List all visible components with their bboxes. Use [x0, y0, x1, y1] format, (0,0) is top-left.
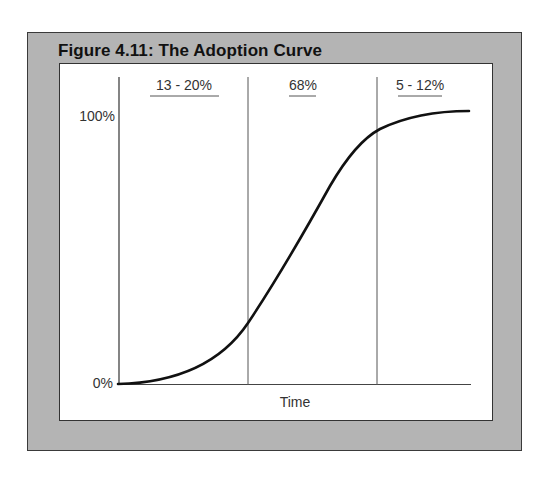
segment-label-majority: 68%: [289, 77, 317, 93]
segment-label-early: 13 - 20%: [156, 77, 212, 93]
adoption-chart: 13 - 20% 68% 5 - 12% 100% 0% Time: [0, 0, 550, 480]
y-tick-100: 100%: [79, 108, 115, 124]
segment-label-laggards: 5 - 12%: [396, 77, 444, 93]
x-axis-label: Time: [280, 394, 311, 410]
y-tick-0: 0%: [93, 375, 113, 391]
adoption-curve: [118, 111, 469, 384]
